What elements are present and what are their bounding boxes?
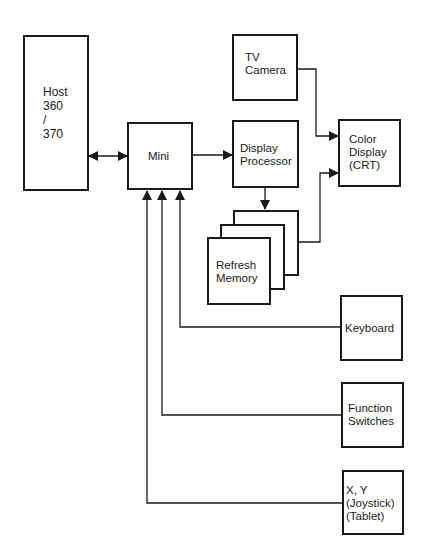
function-switches-box: Function Switches — [341, 382, 404, 448]
mini-label: Mini — [148, 150, 169, 163]
function-switches-label: Function Switches — [348, 402, 394, 428]
xy-input-label: X, Y (Joystick) (Tablet) — [346, 484, 395, 523]
refresh-memory-box: Refresh Memory — [207, 237, 271, 305]
edge-tv-camera-color-display — [298, 69, 338, 136]
host-label: Host 360 / 370 — [43, 85, 68, 141]
host-box: Host 360 / 370 — [23, 35, 89, 191]
display-processor-label: Display Processor — [240, 142, 292, 168]
edge-refresh-memory-color-display — [299, 173, 338, 242]
mini-box: Mini — [127, 122, 193, 190]
xy-input-box: X, Y (Joystick) (Tablet) — [342, 470, 404, 535]
color-display-label: Color Display (CRT) — [349, 133, 387, 172]
keyboard-box: Keyboard — [340, 295, 403, 361]
keyboard-label: Keyboard — [345, 322, 394, 335]
tv-camera-label: TV Camera — [245, 51, 286, 77]
color-display-box: Color Display (CRT) — [338, 119, 401, 187]
display-processor-box: Display Processor — [232, 120, 299, 188]
tv-camera-box: TV Camera — [232, 34, 298, 101]
refresh-memory-label: Refresh Memory — [216, 259, 258, 285]
